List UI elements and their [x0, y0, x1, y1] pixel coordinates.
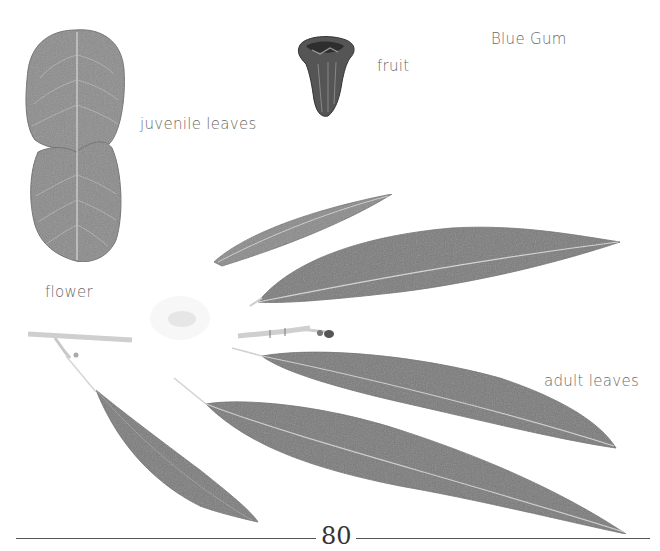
page-number: 80 — [317, 522, 356, 550]
twig-right — [238, 328, 334, 338]
fruit-drawing — [298, 37, 354, 117]
blue-gum-illustration — [0, 0, 660, 551]
twig-left — [28, 334, 132, 392]
juvenile-leaves-label: juvenile leaves — [140, 115, 257, 133]
juvenile-leaves-drawing — [26, 30, 124, 262]
footer-rule-left — [16, 538, 316, 539]
page-title: Blue Gum — [491, 30, 567, 48]
adult-leaves-drawing — [96, 194, 626, 534]
adult-leaves-label: adult leaves — [544, 372, 639, 390]
flower-drawing — [150, 296, 210, 340]
fruit-label: fruit — [377, 57, 410, 75]
footer-rule-right — [354, 538, 650, 539]
flower-label: flower — [45, 283, 93, 301]
